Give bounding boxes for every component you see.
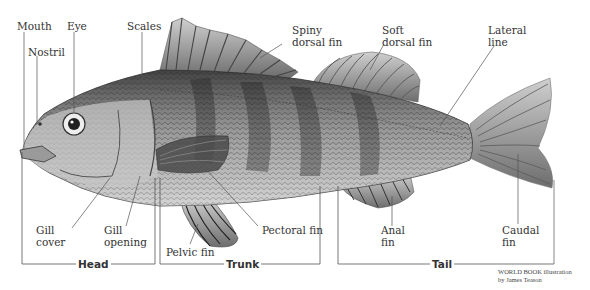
label-scales: Scales	[127, 20, 161, 32]
label-lateral-line: Lateral line	[488, 24, 526, 48]
label-gill-cover: Gill cover	[36, 224, 65, 248]
label-nostril: Nostril	[28, 46, 65, 58]
label-pectoral-fin: Pectoral fin	[262, 224, 323, 236]
spiny-dorsal-fin-shape	[160, 18, 298, 78]
section-tail: Tail	[430, 258, 454, 270]
label-caudal-fin: Caudal fin	[502, 224, 539, 248]
label-pelvic-fin: Pelvic fin	[166, 246, 214, 258]
label-gill-opening: Gill opening	[104, 224, 147, 248]
caudal-fin-shape	[470, 78, 553, 188]
section-trunk: Trunk	[224, 258, 261, 270]
label-spiny-dorsal-fin: Spiny dorsal fin	[292, 24, 342, 48]
label-eye: Eye	[67, 20, 87, 32]
fish-anatomy-diagram: Mouth Nostril Eye Scales Spiny dorsal fi…	[0, 0, 590, 290]
label-anal-fin: Anal fin	[381, 224, 405, 248]
label-mouth: Mouth	[17, 20, 52, 32]
section-head: Head	[76, 258, 111, 270]
label-soft-dorsal-fin: Soft dorsal fin	[382, 24, 432, 48]
illustration-credit: WORLD BOOK illustration by James Teason	[498, 268, 572, 284]
